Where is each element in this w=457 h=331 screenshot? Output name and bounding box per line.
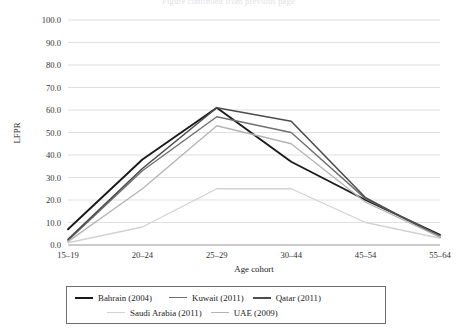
series-line-uae-2009 [68, 126, 440, 242]
legend-swatch-icon-kuwait [169, 297, 187, 298]
x-axis-title: Age cohort [234, 264, 274, 274]
y-tick-labels-group: 0.010.020.030.040.050.060.070.080.090.01… [42, 15, 61, 250]
x-tick-label: 30–44 [280, 250, 302, 260]
legend-swatch-icon-uae [211, 312, 229, 313]
x-tick-label: 45–54 [355, 250, 377, 260]
y-tick-label: 50.0 [46, 128, 61, 138]
y-tick-label: 80.0 [46, 60, 61, 70]
y-tick-label: 0.0 [50, 240, 61, 250]
legend-label-saudi-arabia: Saudi Arabia (2011) [130, 308, 202, 318]
legend-item-saudi-arabia: Saudi Arabia (2011) [107, 308, 202, 318]
y-tick-label: 60.0 [46, 105, 61, 115]
y-tick-label: 40.0 [46, 150, 61, 160]
y-tick-label: 90.0 [46, 38, 61, 48]
legend-label-uae: UAE (2009) [234, 308, 278, 318]
x-tick-label: 25–29 [206, 250, 227, 260]
series-line-bahrain-2004 [68, 108, 440, 235]
y-tick-label: 30.0 [46, 173, 61, 183]
legend-swatch-icon-saudi-arabia [107, 312, 125, 313]
legend-item-kuwait: Kuwait (2011) [169, 293, 244, 303]
legend-swatch-icon-bahrain [75, 297, 93, 299]
y-tick-label: 20.0 [46, 195, 61, 205]
legend-label-bahrain: Bahrain (2004) [98, 293, 152, 303]
x-tick-label: 20–24 [132, 250, 154, 260]
series-line-qatar-2011 [68, 108, 440, 240]
figure-container: Figure continued from previous page 0.01… [0, 0, 457, 331]
legend-row-1: Bahrain (2004) Kuwait (2011) Qatar (2011… [73, 290, 379, 305]
legend-label-kuwait: Kuwait (2011) [192, 293, 244, 303]
plot-area: 0.010.020.030.040.050.060.070.080.090.01… [0, 0, 457, 282]
y-tick-label: 70.0 [46, 83, 61, 93]
series-line-saudi-arabia-2011 [68, 189, 440, 243]
x-tick-label: 55–64 [429, 250, 451, 260]
line-chart: 0.010.020.030.040.050.060.070.080.090.01… [0, 0, 457, 282]
legend-item-qatar: Qatar (2011) [253, 293, 321, 303]
y-axis-title: LFPR [12, 122, 22, 143]
legend-row-2: Saudi Arabia (2011) UAE (2009) [73, 305, 379, 320]
legend: Bahrain (2004) Kuwait (2011) Qatar (2011… [66, 286, 386, 324]
x-tick-labels-group: 15–1920–2425–2930–4445–5455–64 [57, 250, 451, 260]
y-tick-label: 10.0 [46, 218, 61, 228]
legend-label-qatar: Qatar (2011) [276, 293, 321, 303]
legend-item-uae: UAE (2009) [211, 308, 278, 318]
legend-item-bahrain: Bahrain (2004) [75, 293, 152, 303]
x-tick-label: 15–19 [57, 250, 78, 260]
y-tick-label: 100.0 [42, 15, 61, 25]
legend-swatch-icon-qatar [253, 297, 271, 299]
